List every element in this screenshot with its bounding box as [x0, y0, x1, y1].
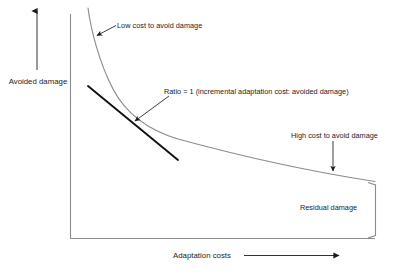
x-axis-label: Adaptation costs [173, 251, 231, 260]
adaptation-cost-curve-figure: Avoided damage Adaptation costs Low cost… [0, 0, 411, 275]
annotation-ratio-one: Ratio = 1 (incremental adaptation cost: … [164, 87, 349, 96]
y-axis-label: Avoided damage [8, 77, 68, 88]
annotation-residual-damage: Residual damage [300, 203, 357, 212]
residual-damage-bracket [368, 183, 376, 239]
low-cost-arrow [97, 26, 116, 36]
annotation-high-cost: High cost to avoid damage [291, 131, 378, 140]
annotation-low-cost: Low cost to avoid damage [117, 21, 202, 30]
tangent-line [88, 86, 178, 160]
ratio-arrow [135, 96, 169, 121]
